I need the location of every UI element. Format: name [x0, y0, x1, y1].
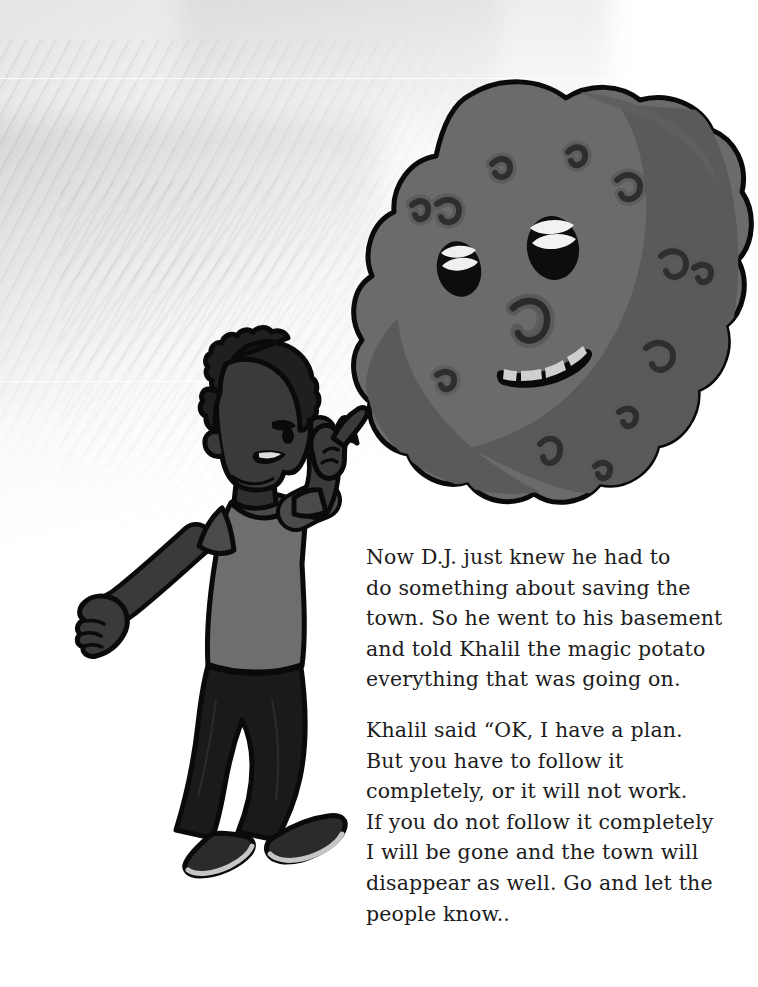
boy-back-shoe: [185, 833, 254, 876]
potato-character: [354, 82, 752, 502]
boy-character: [77, 328, 367, 877]
story-paragraph-1: Now D.J. just knew he had to do somethin…: [366, 542, 750, 695]
boy-legs: [176, 660, 305, 840]
boy-left-hand: [77, 596, 127, 656]
story-paragraph-2: Khalil said “OK, I have a plan. But you …: [366, 715, 750, 929]
boy-left-arm: [110, 540, 196, 611]
story-text-block: Now D.J. just knew he had to do somethin…: [366, 542, 750, 929]
storybook-page: Now D.J. just knew he had to do somethin…: [0, 0, 758, 987]
